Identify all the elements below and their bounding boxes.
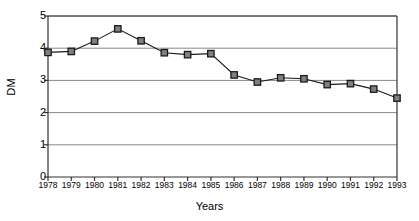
x-tick-label: 1989 [294, 181, 313, 190]
data-point-marker [138, 38, 144, 44]
data-point-marker [324, 81, 330, 87]
data-point-marker [45, 49, 51, 55]
data-point-marker [277, 75, 283, 81]
x-tick-label: 1979 [62, 181, 81, 190]
x-tick-label: 1985 [201, 181, 220, 190]
x-tick-label: 1983 [155, 181, 174, 190]
x-tick-label: 1986 [225, 181, 244, 190]
x-tick-label: 1982 [132, 181, 151, 190]
data-point-marker [91, 38, 97, 44]
x-tick-label: 1987 [248, 181, 267, 190]
x-tick-label: 1992 [364, 181, 383, 190]
x-tick-label: 1978 [39, 181, 58, 190]
x-tick-label: 1984 [178, 181, 197, 190]
data-series-line [48, 29, 397, 98]
data-point-marker [68, 48, 74, 54]
data-point-marker [115, 26, 121, 32]
data-point-marker [301, 76, 307, 82]
x-tick-label: 1988 [271, 181, 290, 190]
x-axis-title: Years [0, 200, 419, 212]
data-point-marker [394, 95, 400, 101]
data-point-marker [254, 79, 260, 85]
x-tick-label: 1991 [341, 181, 360, 190]
x-tick-label: 1990 [318, 181, 337, 190]
data-point-marker [371, 86, 377, 92]
data-point-marker [161, 50, 167, 56]
data-point-marker [184, 51, 190, 57]
data-point-marker [208, 50, 214, 56]
x-tick-label: 1993 [388, 181, 407, 190]
x-tick-label: 1980 [85, 181, 104, 190]
line-chart: DM 012345 197819791980198119821983198419… [0, 0, 419, 221]
x-tick-label: 1981 [108, 181, 127, 190]
data-point-marker [231, 72, 237, 78]
data-point-marker [347, 80, 353, 86]
